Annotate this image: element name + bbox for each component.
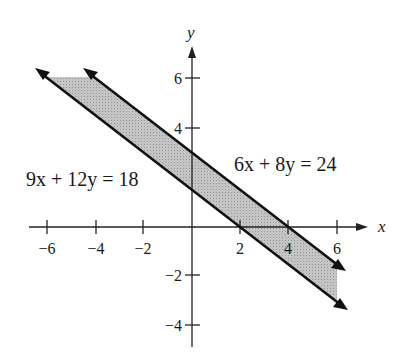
x-axis-label: x xyxy=(377,217,386,236)
y-tick-label: −4 xyxy=(165,317,182,334)
y-tick-label: 6 xyxy=(174,70,182,87)
y-tick-label: 4 xyxy=(174,120,182,137)
x-axis xyxy=(29,220,362,234)
x-tick-label: 4 xyxy=(284,240,292,257)
x-tick-label: 6 xyxy=(333,240,341,257)
x-tick-label: −6 xyxy=(38,240,55,257)
equation-label-lower: 9x + 12y = 18 xyxy=(26,168,139,191)
y-axis-label: y xyxy=(185,23,195,42)
x-tick-label: −2 xyxy=(134,240,151,257)
x-tick-label: −4 xyxy=(87,240,104,257)
x-axis-arrow-icon xyxy=(356,223,368,231)
x-tick-label: 2 xyxy=(236,240,244,257)
y-axis-arrow-icon xyxy=(188,46,196,58)
equation-label-upper: 6x + 8y = 24 xyxy=(234,153,337,176)
graph: −6 −4 −2 2 4 6 6 4 −2 −4 x y 9x + 12y = … xyxy=(0,0,408,359)
y-tick-label: −2 xyxy=(165,267,182,284)
y-axis xyxy=(185,52,200,347)
